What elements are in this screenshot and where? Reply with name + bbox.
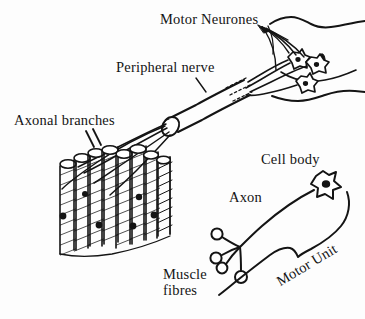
label-motor-neurones: Motor Neurones [160, 12, 258, 28]
motor-neurone-soma-3 [296, 73, 318, 93]
muscle-fibre [155, 156, 172, 238]
label-peripheral-nerve: Peripheral nerve [116, 60, 215, 76]
label-cell-body: Cell body [261, 152, 320, 168]
muscle-fibre [58, 160, 78, 256]
motor-end-plate [130, 223, 137, 230]
label-axon: Axon [229, 190, 262, 206]
motor-end-plate [96, 222, 103, 229]
label-axonal-branches: Axonal branches [14, 113, 115, 129]
motor-end-plate [60, 213, 67, 220]
label-muscle-fibres-line1: Muscle [163, 266, 207, 282]
peripheral-nerve-trunk [162, 78, 252, 136]
label-muscle-fibres: Musclefibres [163, 267, 207, 298]
label-muscle-fibres-line2: fibres [163, 283, 207, 299]
inset-muscle-fibre [211, 228, 222, 239]
inset-muscle-fibre [217, 263, 228, 274]
inset-cell-body [311, 171, 341, 199]
muscle-fibre-bundle [58, 145, 172, 256]
muscle-fibre [100, 146, 120, 246]
peripheral-nerve-leader [196, 78, 206, 92]
inset-muscle-fibre [210, 252, 221, 263]
motor-end-plate [136, 194, 142, 200]
motor-end-plate [82, 191, 88, 197]
motor-unit-figure: Motor Neurones Peripheral nerve Axonal b… [0, 0, 365, 319]
axonal-branches-pointer [86, 129, 101, 147]
motor-end-plate [151, 212, 158, 219]
